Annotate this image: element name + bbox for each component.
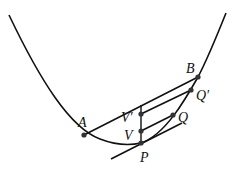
point-P (138, 140, 143, 145)
label-B: B (186, 61, 195, 76)
label-Vp: V′ (121, 110, 134, 125)
point-B (195, 74, 200, 79)
label-Qp: Q′ (196, 88, 210, 103)
label-A: A (77, 115, 87, 130)
point-Qp (188, 87, 193, 92)
parabola-diagram: A B Q′ Q V′ V P (0, 0, 233, 174)
point-A (81, 132, 86, 137)
point-V (138, 128, 143, 133)
label-Q: Q (178, 110, 188, 125)
label-P: P (139, 150, 149, 165)
point-Q (170, 112, 175, 117)
point-Vp (138, 111, 143, 116)
label-V: V (124, 128, 134, 143)
